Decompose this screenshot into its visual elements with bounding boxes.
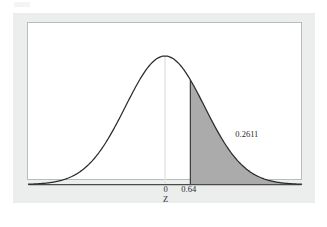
tick-label-cutoff: 0.64 [181, 185, 196, 194]
figure-frame [13, 13, 315, 203]
normal-distribution-plot [13, 13, 315, 203]
scan-artifact [14, 2, 30, 7]
axis-title-z: Z [163, 195, 168, 204]
tick-label-zero: 0 [164, 185, 168, 194]
tail-area-annotation: 0.2611 [235, 130, 258, 139]
